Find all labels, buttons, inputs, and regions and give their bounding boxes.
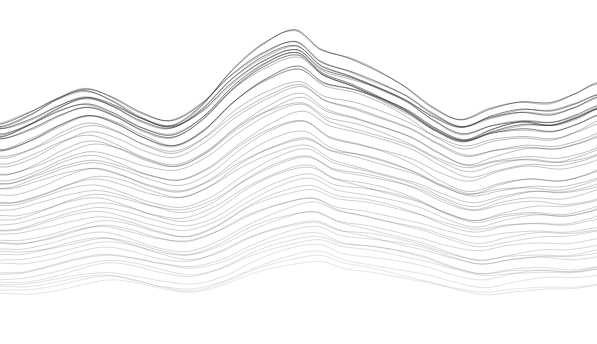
ridgeline-wave-chart [0,0,597,344]
figure-canvas-container: Ridgeline Wave Field Abstract ridgeline … [0,0,597,344]
